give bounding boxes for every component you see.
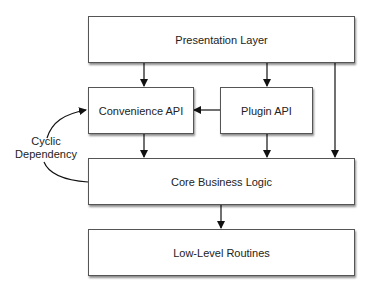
node-label: Low-Level Routines xyxy=(173,247,270,259)
edge-cyclic-dependency-upper xyxy=(47,110,86,138)
node-convenience-api: Convenience API xyxy=(88,87,194,134)
cyclic-dependency-annotation: Cyclic Dependency xyxy=(8,135,84,161)
node-core-business-logic: Core Business Logic xyxy=(88,158,355,205)
node-label: Plugin API xyxy=(241,105,292,117)
edge-cyclic-dependency xyxy=(44,162,88,182)
node-plugin-api: Plugin API xyxy=(220,87,313,134)
annotation-line-1: Cyclic xyxy=(8,135,84,148)
node-label: Convenience API xyxy=(99,105,183,117)
annotation-line-2: Dependency xyxy=(8,148,84,161)
node-presentation-layer: Presentation Layer xyxy=(88,16,355,63)
node-label: Presentation Layer xyxy=(175,34,267,46)
node-label: Core Business Logic xyxy=(171,176,272,188)
node-low-level-routines: Low-Level Routines xyxy=(88,229,355,276)
